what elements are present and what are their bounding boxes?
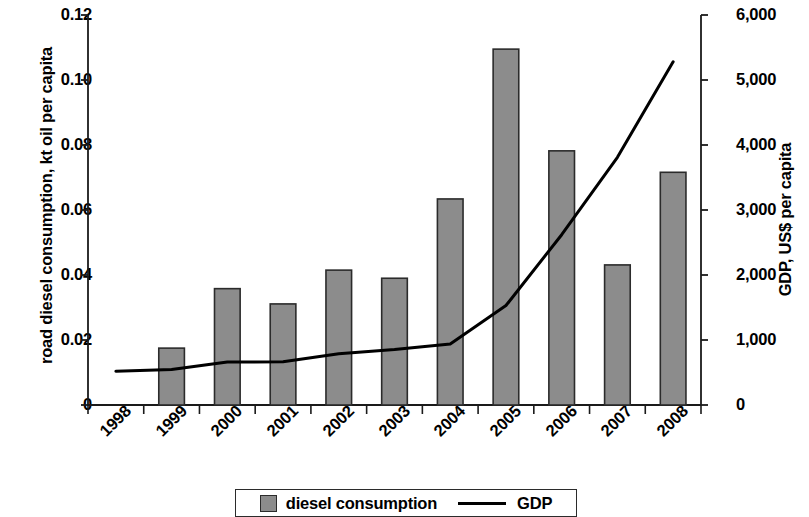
bar-2003 (382, 278, 408, 405)
bar-2002 (326, 270, 352, 405)
legend-label-gdp: GDP (517, 494, 552, 513)
bar-2008 (660, 172, 686, 405)
chart-container: road diesel consumption, kt oil per capi… (0, 0, 809, 517)
bar-2006 (549, 151, 575, 405)
bar-2004 (437, 199, 463, 405)
chart-legend: diesel consumption GDP (235, 489, 577, 517)
bar-1999 (159, 348, 185, 405)
bar-2005 (493, 49, 519, 405)
legend-line-gdp-icon (458, 502, 506, 505)
legend-swatch-diesel-consumption-icon (260, 495, 277, 512)
bar-2000 (215, 289, 241, 405)
bar-2007 (605, 265, 631, 405)
legend-label-diesel-consumption: diesel consumption (286, 494, 437, 513)
bar-2001 (270, 304, 296, 405)
plot-area (0, 0, 809, 517)
